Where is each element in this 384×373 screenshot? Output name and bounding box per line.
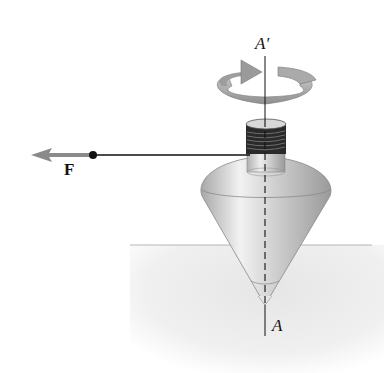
spool	[246, 119, 286, 176]
axis-top-label: A′	[255, 34, 269, 54]
axis-bottom-label: A	[272, 316, 282, 336]
rotation-arrow-icon	[217, 60, 316, 104]
spinning-top-diagram	[0, 0, 384, 373]
force-label: F	[64, 160, 74, 180]
